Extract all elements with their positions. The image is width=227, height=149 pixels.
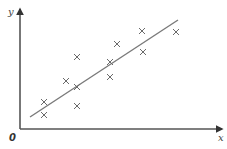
data-point-x-marker-icon	[63, 78, 69, 84]
data-point-x-marker-icon	[140, 49, 146, 55]
data-point-x-marker-icon	[139, 28, 145, 34]
data-point-x-marker-icon	[173, 29, 179, 35]
trend-line	[30, 20, 178, 117]
data-point-x-marker-icon	[74, 103, 80, 109]
data-point-x-marker-icon	[41, 99, 47, 105]
data-point-x-marker-icon	[74, 54, 80, 60]
scatter-chart: y x 0	[0, 0, 227, 149]
data-point-x-marker-icon	[114, 41, 120, 47]
data-points	[41, 28, 179, 118]
data-point-x-marker-icon	[107, 74, 113, 80]
origin-label: 0	[9, 132, 16, 143]
data-point-x-marker-icon	[41, 112, 47, 118]
x-axis-label: x	[218, 132, 224, 143]
y-axis-label: y	[7, 6, 14, 17]
